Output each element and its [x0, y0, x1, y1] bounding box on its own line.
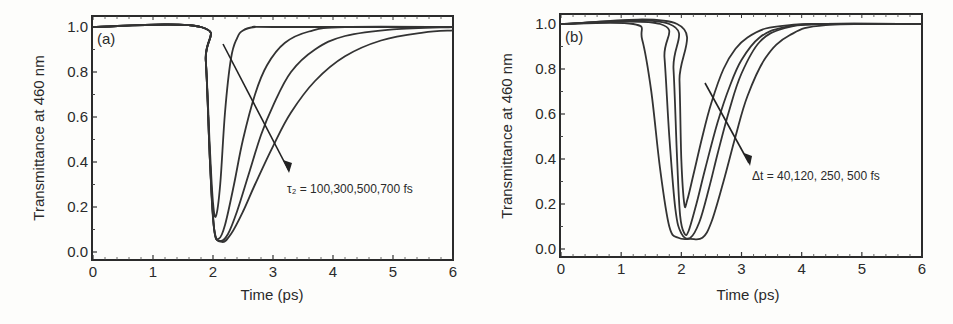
x-tick-label: 5	[389, 263, 397, 280]
y-tick-label: 0.2	[67, 198, 88, 215]
x-tick-label: 6	[918, 260, 926, 277]
arrow-head-icon	[283, 160, 292, 173]
plot-frame-b	[560, 14, 922, 257]
x-tick-label: 1	[149, 263, 157, 280]
series-line	[561, 23, 922, 240]
x-tick-label: 3	[269, 263, 277, 280]
x-tick-label: 2	[209, 263, 217, 280]
y-tick-label: 0.8	[67, 63, 88, 80]
x-tick-label: 3	[737, 260, 745, 277]
x-tick-label: 1	[617, 260, 625, 277]
panel-b: 0.00.20.40.60.81.0 0123456 (b) Time (ps)…	[498, 14, 926, 303]
panel-a: 0.00.20.40.60.81.0 0123456 (a) Time (ps)…	[30, 16, 457, 303]
x-tick-label: 5	[858, 260, 866, 277]
y-tick-label: 0.8	[535, 60, 556, 77]
y-tick-label: 0.2	[535, 195, 556, 212]
y-tick-label: 0.4	[67, 153, 88, 170]
x-tick-label: 6	[449, 263, 457, 280]
y-tick-label: 0.0	[67, 243, 88, 260]
y-tick-label: 1.0	[535, 15, 556, 32]
x-axis-title-b: Time (ps)	[717, 286, 780, 303]
panel-label-a: (a)	[97, 30, 115, 47]
y-tick-label: 0.4	[535, 150, 556, 167]
y-tick-label: 0.6	[67, 108, 88, 125]
series-line	[561, 21, 922, 238]
arrow-head-icon	[744, 153, 752, 166]
y-tick-label: 0.0	[535, 240, 556, 257]
x-tick-label: 0	[89, 263, 97, 280]
y-axis-title-b: Transmittance at 460 nm	[498, 53, 515, 218]
series-line	[561, 20, 922, 235]
x-tick-label: 2	[677, 260, 685, 277]
annotation-a: τ₂ = 100,300,500,700 fs	[287, 182, 413, 196]
panel-label-b: (b)	[565, 28, 583, 45]
series-line	[93, 24, 453, 239]
figure: 0.00.20.40.60.81.0 0123456 (a) Time (ps)…	[0, 0, 953, 324]
x-tick-label: 4	[798, 260, 806, 277]
x-ticks-b: 0123456	[557, 14, 926, 277]
annotation-b: Δt = 40,120, 250, 500 fs	[752, 169, 880, 183]
x-tick-label: 4	[329, 263, 337, 280]
x-tick-label: 0	[557, 260, 565, 277]
y-tick-label: 0.6	[535, 105, 556, 122]
curves-a	[93, 24, 453, 242]
y-axis-title-a: Transmittance at 460 nm	[30, 55, 47, 220]
curves-b	[561, 20, 922, 240]
y-tick-label: 1.0	[67, 18, 88, 35]
x-axis-title-a: Time (ps)	[241, 286, 304, 303]
